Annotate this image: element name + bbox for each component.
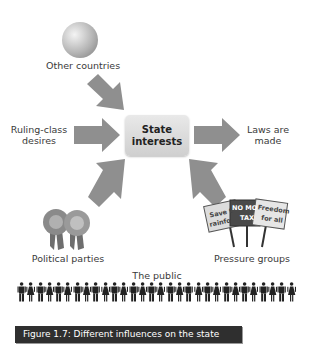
woman-figure-icon (26, 282, 35, 302)
rosettes-icon (38, 208, 98, 252)
man-figure-icon (203, 282, 212, 302)
state-label-1: State (132, 124, 183, 136)
man-figure-icon (147, 282, 156, 302)
man-figure-icon (277, 282, 286, 302)
woman-figure-icon (287, 282, 296, 302)
woman-figure-icon (138, 282, 147, 302)
svg-text:NO MO: NO MO (232, 204, 258, 212)
arrow-down-right (87, 74, 124, 110)
man-figure-icon (36, 282, 45, 302)
man-figure-icon (166, 282, 175, 302)
laws-label: Laws are made (240, 124, 296, 146)
woman-figure-icon (194, 282, 203, 302)
woman-figure-icon (101, 282, 110, 302)
woman-figure-icon (156, 282, 165, 302)
svg-text:TAX: TAX (240, 214, 254, 222)
ruling-class-line2: desires (6, 135, 72, 146)
woman-figure-icon (231, 282, 240, 302)
man-figure-icon (110, 282, 119, 302)
ruling-class-line1: Ruling-class (6, 124, 72, 135)
woman-figure-icon (268, 282, 277, 302)
man-figure-icon (54, 282, 63, 302)
the-public-label: The public (127, 270, 187, 281)
man-figure-icon (17, 282, 26, 302)
figure-caption: Figure 1.7: Different influences on the … (15, 326, 242, 343)
laws-line1: Laws are (240, 124, 296, 135)
man-figure-icon (222, 282, 231, 302)
arrow-right-ruling (74, 118, 120, 152)
woman-figure-icon (249, 282, 258, 302)
woman-figure-icon (212, 282, 221, 302)
woman-figure-icon (63, 282, 72, 302)
arrow-right-laws (194, 118, 240, 152)
man-figure-icon (240, 282, 249, 302)
man-figure-icon (184, 282, 193, 302)
man-figure-icon (73, 282, 82, 302)
woman-figure-icon (119, 282, 128, 302)
woman-figure-icon (175, 282, 184, 302)
man-figure-icon (129, 282, 138, 302)
woman-figure-icon (45, 282, 54, 302)
pressure-groups-label: Pressure groups (212, 253, 292, 264)
political-parties-label: Political parties (28, 253, 108, 264)
man-figure-icon (91, 282, 100, 302)
state-interests-box: State interests (125, 115, 189, 156)
state-label-2: interests (132, 136, 183, 148)
laws-line2: made (240, 135, 296, 146)
arrow-up-right (88, 159, 125, 207)
woman-figure-icon (82, 282, 91, 302)
public-figures (17, 282, 296, 302)
man-figure-icon (259, 282, 268, 302)
ruling-class-label: Ruling-class desires (6, 124, 72, 146)
protest-placards-icon: Save t rainfo NO MO TAX Freedom for all (200, 197, 290, 249)
